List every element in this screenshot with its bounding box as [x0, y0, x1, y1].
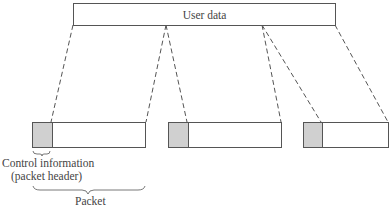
packet-3-header [304, 123, 323, 147]
packet-annotation: Packet [75, 195, 106, 207]
split-line-4 [262, 25, 281, 122]
packet-1-header [33, 123, 53, 147]
user-data-label: User data [183, 9, 227, 21]
packet-2-header [169, 123, 189, 147]
packet-2 [168, 122, 282, 148]
packet-1 [32, 122, 146, 148]
split-line-2 [146, 25, 166, 122]
packet-3 [303, 122, 389, 148]
split-line-1 [51, 25, 73, 122]
header-annotation-line2: (packet header) [11, 170, 82, 182]
split-line-5 [262, 25, 321, 122]
split-line-6 [335, 25, 388, 122]
packet-brace-icon [33, 186, 145, 194]
header-brace-icon [33, 151, 50, 156]
split-line-3 [166, 25, 187, 122]
user-data-block: User data [73, 3, 336, 26]
header-annotation-line1: Control information [2, 157, 94, 169]
